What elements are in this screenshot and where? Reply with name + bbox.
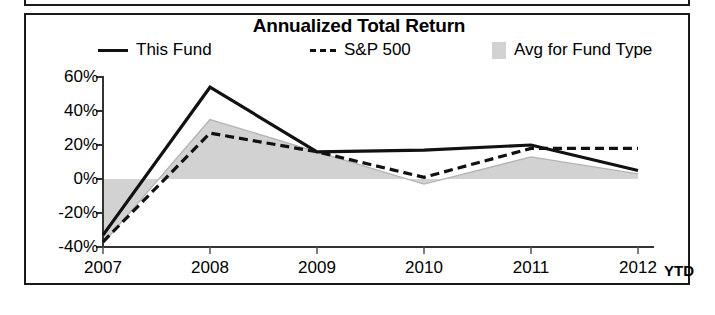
y-tick-label: -20% xyxy=(58,203,98,223)
x-tick-label-2012: 2012 xyxy=(619,258,657,278)
x-tick-label-2010: 2010 xyxy=(405,258,443,278)
y-tick-label: 40% xyxy=(64,101,98,121)
adjacent-panel-bottom-edge xyxy=(24,0,690,6)
x-axis-tick-labels: 200720082009201020112012YTD xyxy=(26,256,692,287)
y-tick-label: -40% xyxy=(58,237,98,257)
x-tick-label-2011: 2011 xyxy=(513,258,550,278)
x-axis-ytd-label: YTD xyxy=(664,262,694,279)
x-tick-label-2008: 2008 xyxy=(191,258,229,278)
annualized-total-return-chart-panel: Annualized Total Return This Fund S&P 50… xyxy=(24,13,690,285)
area-series-avg-for-fund-type xyxy=(103,120,638,244)
y-tick-label: 60% xyxy=(64,67,98,87)
plot-area: 60%40%20%0%-20%-40% 20072008200920102011… xyxy=(26,15,692,287)
y-tick-label: 20% xyxy=(64,135,98,155)
y-axis-tick-labels: 60%40%20%0%-20%-40% xyxy=(26,15,102,287)
y-tick-label: 0% xyxy=(73,169,98,189)
x-tick-label-2009: 2009 xyxy=(298,258,336,278)
chart-canvas xyxy=(26,15,692,287)
x-tick-label-2007: 2007 xyxy=(84,258,122,278)
area-series-outline xyxy=(103,120,638,244)
